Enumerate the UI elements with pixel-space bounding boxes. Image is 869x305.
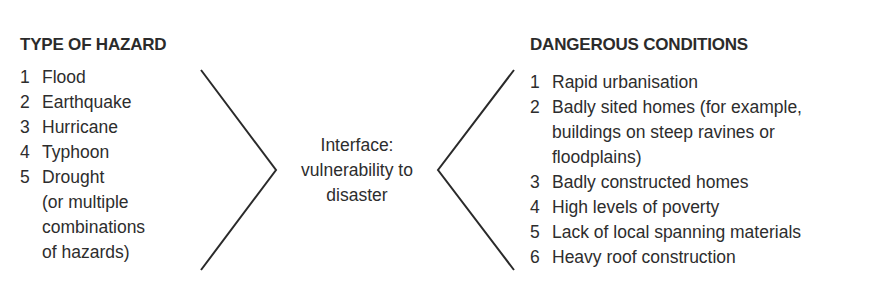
- list-item: 5 Drought (or multiple combinations of h…: [20, 165, 145, 265]
- list-item: 3 Badly constructed homes: [530, 170, 802, 195]
- list-item: 4 Typhoon: [20, 140, 145, 165]
- left-chevron: [201, 70, 276, 270]
- list-item: 2 Earthquake: [20, 90, 145, 115]
- list-item: 5 Lack of local spanning materials: [530, 220, 802, 245]
- dangerous-conditions-list: 1 Rapid urbanisation 2 Badly sited homes…: [530, 70, 802, 270]
- hazard-type-heading: TYPE OF HAZARD: [20, 35, 166, 55]
- list-item: 1 Flood: [20, 65, 145, 90]
- list-item: 1 Rapid urbanisation: [530, 70, 802, 95]
- hazard-type-list: 1 Flood 2 Earthquake 3 Hurricane 4 Typho…: [20, 65, 145, 265]
- list-item: 6 Heavy roof construction: [530, 245, 802, 270]
- right-chevron: [438, 70, 514, 270]
- dangerous-conditions-heading: DANGEROUS CONDITIONS: [530, 35, 748, 55]
- list-item: 3 Hurricane: [20, 115, 145, 140]
- list-item: 4 High levels of poverty: [530, 195, 802, 220]
- list-item: 2 Badly sited homes (for example, buildi…: [530, 95, 802, 170]
- interface-label: Interface: vulnerability to disaster: [282, 133, 432, 208]
